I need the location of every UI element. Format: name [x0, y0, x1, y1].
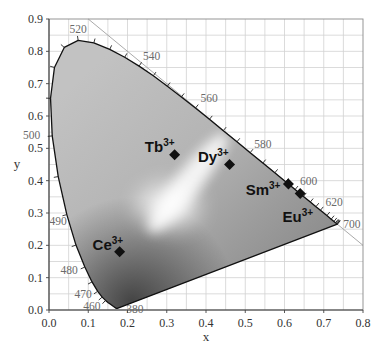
wavelength-tick-560: [195, 105, 198, 109]
ion-symbol: Ce: [93, 236, 112, 253]
wavelength-tick-580: [250, 149, 253, 152]
wavelength-tick-480: [81, 267, 85, 269]
wavelength-tick-650: [334, 218, 337, 221]
wavelength-tick-600: [295, 186, 298, 189]
wavelength-label-460: 460: [83, 300, 101, 312]
wavelength-label-620: 620: [325, 196, 343, 208]
wavelength-tick-530: [110, 45, 112, 49]
ion-symbol: Sm: [246, 181, 269, 198]
wavelength-tick-590: [275, 169, 278, 172]
wavelength-tick-535: [125, 53, 127, 57]
x-tick-label: 0.3: [159, 316, 174, 330]
wavelength-label-700: 700: [343, 218, 361, 230]
wavelength-tick-525: [94, 39, 95, 43]
wavelength-tick-495: [54, 177, 58, 178]
cie-chromaticity-chart: 380460470480490500520540560580600620700 …: [0, 0, 385, 354]
wavelength-label-490: 490: [50, 215, 68, 227]
wavelength-label-600: 600: [300, 175, 318, 187]
y-tick-label: 0.3: [28, 206, 43, 220]
x-tick-label: 0.6: [277, 316, 292, 330]
wavelength-label-470: 470: [74, 288, 92, 300]
x-tick-label: 0.7: [316, 316, 331, 330]
wavelength-label-480: 480: [61, 264, 79, 276]
ion-charge: 3+: [269, 180, 281, 191]
wavelength-tick-460: [102, 300, 105, 303]
wavelength-label-560: 560: [200, 92, 218, 104]
x-tick-label: 0.4: [199, 316, 214, 330]
y-tick-label: 0.5: [28, 141, 43, 155]
y-tick-label: 0.6: [28, 109, 43, 123]
ion-symbol: Dy: [198, 148, 218, 165]
ion-symbol: Eu: [283, 208, 302, 225]
ion-symbol: Tb: [145, 138, 163, 155]
wavelength-label-500: 500: [23, 129, 41, 141]
wavelength-label-580: 580: [254, 138, 272, 150]
wavelength-tick-620: [320, 207, 323, 210]
wavelength-tick-575: [237, 138, 240, 141]
wavelength-label-380: 380: [126, 303, 144, 315]
wavelength-label-540: 540: [143, 50, 161, 62]
wavelength-tick-520: [77, 36, 78, 40]
x-axis-title: x: [203, 329, 210, 344]
white-point-core: [138, 184, 198, 228]
y-tick-label: 0.8: [28, 44, 43, 58]
ion-charge: 3+: [163, 137, 175, 148]
y-tick-label: 0.9: [28, 12, 43, 26]
wavelength-tick-640: [331, 216, 334, 219]
wavelength-tick-515: [61, 44, 64, 47]
wavelength-label-520: 520: [70, 23, 88, 35]
ion-charge: 3+: [217, 147, 229, 158]
x-tick-label: 0.8: [356, 316, 371, 330]
wavelength-tick-610: [310, 199, 313, 202]
x-tick-label: 0.0: [42, 316, 57, 330]
x-tick-label: 0.2: [120, 316, 135, 330]
ion-charge: 3+: [302, 207, 314, 218]
y-tick-label: 0.7: [28, 77, 43, 91]
wavelength-tick-615: [316, 203, 319, 206]
y-tick-label: 0.1: [28, 271, 43, 285]
y-axis-title: y: [14, 156, 21, 171]
x-tick-label: 0.5: [238, 316, 253, 330]
y-tick-label: 0.0: [28, 303, 43, 317]
ion-charge: 3+: [112, 235, 124, 246]
wavelength-tick-540: [139, 62, 141, 66]
y-tick-label: 0.4: [28, 174, 43, 188]
y-tick-label: 0.2: [28, 238, 43, 252]
x-tick-label: 0.1: [81, 316, 96, 330]
